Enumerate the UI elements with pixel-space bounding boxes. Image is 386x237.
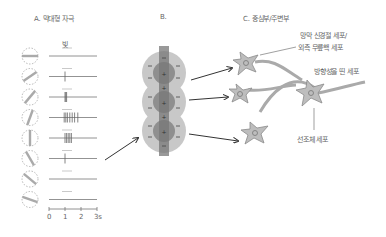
bar-stimulus — [24, 90, 36, 104]
bar-stimulus — [26, 110, 34, 126]
striate-neuron — [241, 122, 268, 144]
receptive-field-stack: ++ ++ + — [142, 46, 186, 156]
bar-stimulus — [23, 173, 37, 185]
svg-text:+: + — [161, 70, 166, 77]
svg-text:+: + — [161, 99, 166, 106]
lgn-neuron — [229, 84, 252, 103]
bar-stimulus — [25, 151, 35, 166]
bar-stimulus — [29, 130, 31, 146]
bar-stimulus — [23, 71, 37, 82]
svg-text:+: + — [161, 113, 166, 120]
svg-text:+: + — [161, 128, 166, 135]
svg-text:+: + — [161, 84, 166, 91]
panel-a-rows — [22, 48, 97, 208]
time-axis — [49, 207, 97, 211]
bar-stimulus — [22, 196, 38, 204]
bar-stimulus — [22, 55, 38, 57]
retinal-ganglion-neuron — [233, 52, 258, 75]
diagram-canvas: ++ ++ + — [0, 0, 386, 237]
neurons — [229, 52, 365, 144]
